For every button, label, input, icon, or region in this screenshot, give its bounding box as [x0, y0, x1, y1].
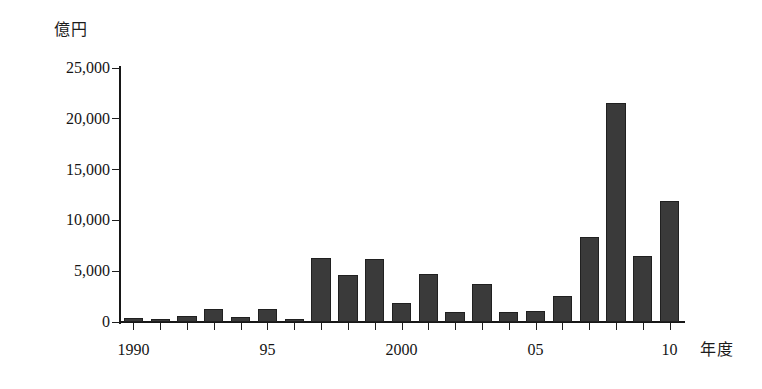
- y-axis-tick-label: 10,000: [36, 212, 110, 228]
- bar: [526, 311, 545, 322]
- y-axis-tick: [112, 220, 120, 221]
- y-axis-tick-label: 5,000: [36, 263, 110, 279]
- bar: [338, 275, 357, 322]
- x-axis-tick-label: 2000: [386, 342, 418, 358]
- y-axis-tick-label-wrap: 0: [30, 314, 110, 330]
- y-axis-tick-label-wrap: 5,000: [30, 263, 110, 279]
- y-axis-tick: [112, 118, 120, 119]
- y-axis-tick-label: 25,000: [36, 60, 110, 76]
- x-axis-tick: [455, 323, 456, 330]
- x-axis-tick: [509, 323, 510, 330]
- bar: [419, 274, 438, 322]
- y-axis-tick: [112, 68, 120, 69]
- bar: [365, 259, 384, 322]
- bar: [606, 103, 625, 322]
- bar: [151, 319, 170, 322]
- x-axis-tick: [267, 323, 268, 330]
- bar: [553, 296, 572, 322]
- x-axis-tick: [375, 323, 376, 330]
- bar: [311, 258, 330, 322]
- y-axis-unit-label: 億円: [54, 22, 87, 38]
- y-axis-tick: [112, 271, 120, 272]
- y-axis-tick-label-wrap: 10,000: [30, 212, 110, 228]
- x-axis-tick: [348, 323, 349, 330]
- bar: [177, 316, 196, 322]
- x-axis-tick: [670, 323, 671, 330]
- x-axis-tick: [428, 323, 429, 330]
- x-axis-tick: [160, 323, 161, 330]
- bar: [472, 284, 491, 322]
- bar: [204, 309, 223, 322]
- y-axis-tick-label: 0: [36, 314, 110, 330]
- y-axis-tick-label: 20,000: [36, 111, 110, 127]
- bar: [499, 312, 518, 322]
- bar: [633, 256, 652, 322]
- bar: [124, 318, 143, 322]
- x-axis-tick-label: 95: [259, 342, 275, 358]
- y-axis-tick-label-wrap: 15,000: [30, 162, 110, 178]
- x-axis-tick-label: 10: [662, 342, 678, 358]
- bar: [285, 319, 304, 322]
- x-axis-tick-label: 1990: [117, 342, 149, 358]
- x-axis-tick: [536, 323, 537, 330]
- bar-chart: 億円 05,00010,00015,00020,00025,000 199095…: [0, 0, 762, 389]
- x-axis-tick: [241, 323, 242, 330]
- x-axis-tick: [294, 323, 295, 330]
- x-axis-tick: [589, 323, 590, 330]
- bar: [258, 309, 277, 322]
- x-axis-tick: [402, 323, 403, 330]
- bar: [392, 303, 411, 322]
- x-axis-tick: [562, 323, 563, 330]
- y-axis-tick: [112, 322, 120, 323]
- x-axis-tick: [482, 323, 483, 330]
- bar: [660, 201, 679, 322]
- y-axis-tick-label-wrap: 20,000: [30, 111, 110, 127]
- x-axis-unit-label: 年度: [700, 342, 733, 358]
- bar-series: [120, 68, 683, 322]
- y-axis-tick-label: 15,000: [36, 162, 110, 178]
- x-axis-tick: [133, 323, 134, 330]
- x-axis-tick-label: 05: [528, 342, 544, 358]
- bar: [231, 317, 250, 322]
- x-axis-tick: [214, 323, 215, 330]
- x-axis-tick: [643, 323, 644, 330]
- y-axis-tick-label-wrap: 25,000: [30, 60, 110, 76]
- y-axis-tick: [112, 169, 120, 170]
- bar: [445, 312, 464, 322]
- bar: [580, 237, 599, 322]
- x-axis-tick: [321, 323, 322, 330]
- x-axis-tick: [187, 323, 188, 330]
- x-axis-tick: [616, 323, 617, 330]
